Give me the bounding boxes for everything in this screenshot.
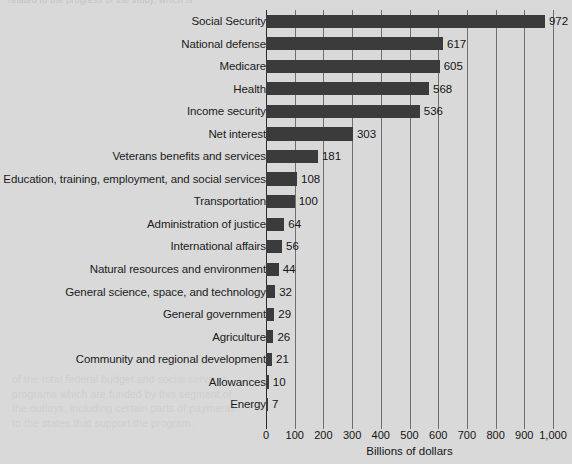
bar-track: 56 <box>266 235 572 258</box>
bar <box>266 330 273 343</box>
bar-row: Social Security972 <box>0 10 572 33</box>
bar-track: 181 <box>266 145 572 168</box>
bar-track: 21 <box>266 348 572 371</box>
bar-row: Natural resources and environment44 <box>0 258 572 281</box>
chart-plot-area: Social Security972National defense617Med… <box>0 10 572 416</box>
bar-row: Net interest303 <box>0 123 572 146</box>
bar-category-label: Social Security <box>191 10 266 33</box>
bar-value-label: 972 <box>545 10 568 33</box>
bar-track: 7 <box>266 393 572 416</box>
bar-category-label: Medicare <box>220 55 267 78</box>
x-tick-label: 1,000 <box>539 429 567 441</box>
bar-value-label: 44 <box>279 258 296 281</box>
bar-track: 100 <box>266 190 572 213</box>
bar-row: Income security536 <box>0 100 572 123</box>
bar-category-label: Income security <box>187 100 266 123</box>
bar-category-label: Health <box>233 78 266 101</box>
bar-track: 972 <box>266 10 572 33</box>
bar-category-label: Transportation <box>194 190 266 213</box>
bar-value-label: 181 <box>318 145 341 168</box>
bar-track: 32 <box>266 281 572 304</box>
bar-row: General government29 <box>0 303 572 326</box>
bar-value-label: 26 <box>273 326 290 349</box>
bar-track: 10 <box>266 371 572 394</box>
bar-track: 26 <box>266 326 572 349</box>
x-tick-label: 600 <box>429 429 447 441</box>
bar-row: Allowances10 <box>0 371 572 394</box>
x-tick-label: 500 <box>400 429 418 441</box>
bar-row: National defense617 <box>0 33 572 56</box>
bar-category-label: National defense <box>181 33 266 56</box>
bar-value-label: 10 <box>269 371 286 394</box>
bar-row: Health568 <box>0 78 572 101</box>
bar-category-label: Administration of justice <box>147 213 266 236</box>
bar-track: 29 <box>266 303 572 326</box>
bar <box>266 263 279 276</box>
bar <box>266 105 420 118</box>
bar-category-label: General science, space, and technology <box>65 281 266 304</box>
bar-track: 303 <box>266 123 572 146</box>
x-axis-title: Billions of dollars <box>266 445 553 457</box>
bar-category-label: Community and regional development <box>76 348 266 371</box>
bar-category-label: Education, training, employment, and soc… <box>3 168 266 191</box>
x-tick-label: 900 <box>515 429 533 441</box>
bar-track: 44 <box>266 258 572 281</box>
bar-track: 108 <box>266 168 572 191</box>
bar <box>266 127 353 140</box>
x-tick-label: 400 <box>372 429 390 441</box>
bar-value-label: 29 <box>274 303 291 326</box>
bar-row: General science, space, and technology32 <box>0 281 572 304</box>
bar-track: 617 <box>266 33 572 56</box>
bar <box>266 285 275 298</box>
bar-row: Medicare605 <box>0 55 572 78</box>
x-tick-label: 100 <box>286 429 304 441</box>
bar-value-label: 303 <box>353 123 376 146</box>
x-tick-label: 300 <box>343 429 361 441</box>
bar-category-label: International affairs <box>171 235 267 258</box>
bar-track: 605 <box>266 55 572 78</box>
bar-track: 64 <box>266 213 572 236</box>
bar-row: Veterans benefits and services181 <box>0 145 572 168</box>
bar-category-label: Energy <box>230 393 266 416</box>
bar-value-label: 617 <box>443 33 466 56</box>
x-axis-tick-labels: 01002003004005006007008009001,000 <box>0 429 572 445</box>
x-tick-label: 0 <box>263 429 269 441</box>
bar-category-label: Net interest <box>208 123 266 146</box>
bar-category-label: Veterans benefits and services <box>112 145 266 168</box>
horizontal-bar-chart: Social Security972National defense617Med… <box>0 0 572 464</box>
bar <box>266 150 318 163</box>
bar-value-label: 100 <box>295 190 318 213</box>
bar <box>266 82 429 95</box>
bar-row: Administration of justice64 <box>0 213 572 236</box>
bar-row: Agriculture26 <box>0 326 572 349</box>
x-tick-label: 700 <box>458 429 476 441</box>
bar <box>266 15 545 28</box>
bar-category-label: Allowances <box>209 371 266 394</box>
bar-row: Energy7 <box>0 393 572 416</box>
bar <box>266 37 443 50</box>
x-tick-label: 200 <box>314 429 332 441</box>
bar-value-label: 21 <box>272 348 289 371</box>
bar <box>266 240 282 253</box>
bar-value-label: 108 <box>297 168 320 191</box>
bar-value-label: 64 <box>284 213 301 236</box>
bar-row: Transportation100 <box>0 190 572 213</box>
bar-category-label: General government <box>163 303 266 326</box>
bar-track: 536 <box>266 100 572 123</box>
bar-row: Education, training, employment, and soc… <box>0 168 572 191</box>
bar <box>266 60 440 73</box>
bar <box>266 308 274 321</box>
bar-value-label: 7 <box>268 393 278 416</box>
bar-row: Community and regional development21 <box>0 348 572 371</box>
bar-value-label: 605 <box>440 55 463 78</box>
x-tick-label: 800 <box>486 429 504 441</box>
bar-value-label: 32 <box>275 281 292 304</box>
bar-category-label: Agriculture <box>212 326 266 349</box>
bar <box>266 195 295 208</box>
bar-value-label: 536 <box>420 100 443 123</box>
bar <box>266 218 284 231</box>
bar-track: 568 <box>266 78 572 101</box>
bar-value-label: 56 <box>282 235 299 258</box>
bar-row: International affairs56 <box>0 235 572 258</box>
bar-value-label: 568 <box>429 78 452 101</box>
